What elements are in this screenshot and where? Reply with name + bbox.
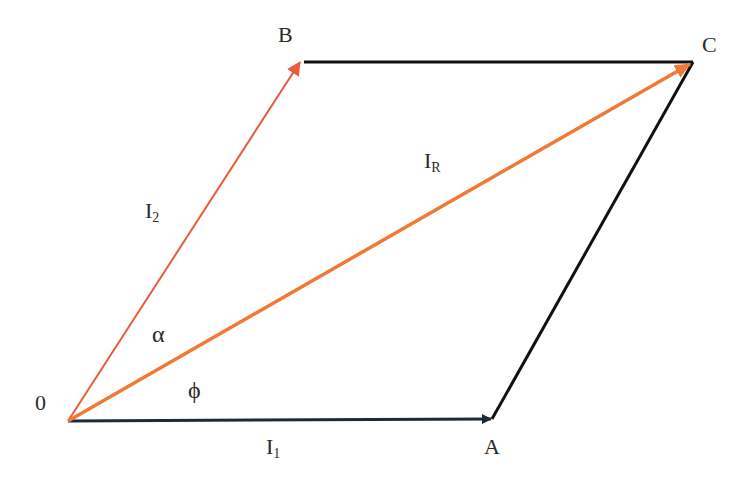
label-origin: 0	[35, 392, 46, 414]
label-b: B	[278, 24, 293, 46]
label-i1-sub: 1	[273, 446, 280, 461]
label-ir-sub: R	[431, 160, 440, 175]
label-i2: I2	[145, 200, 159, 225]
vector-ir	[68, 64, 690, 421]
vector-i2	[68, 62, 300, 421]
phasor-diagram	[0, 0, 751, 479]
label-i2-sub: 2	[152, 210, 159, 225]
angle-alpha-label: α	[152, 322, 165, 346]
angle-phi-label: ϕ	[188, 378, 201, 402]
edge-ac	[492, 62, 693, 419]
label-c: C	[702, 34, 717, 56]
label-ir: IR	[424, 150, 441, 175]
label-i1: I1	[266, 436, 280, 461]
label-a: A	[484, 436, 500, 458]
vector-i1	[68, 419, 491, 421]
